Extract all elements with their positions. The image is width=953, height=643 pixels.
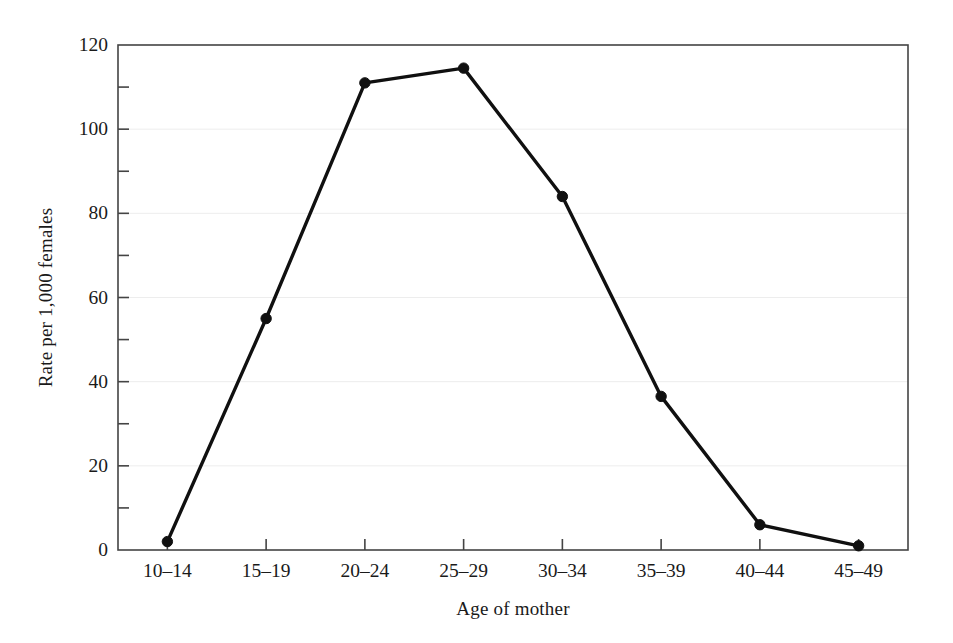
chart-figure: 020406080100120 10–1415–1920–2425–2930–3… (0, 0, 953, 643)
x-tick-label: 10–14 (143, 561, 192, 581)
x-tick-label: 35–39 (637, 561, 686, 581)
data-point (853, 541, 863, 551)
data-point (755, 520, 765, 530)
data-point (656, 391, 666, 401)
data-line (167, 68, 858, 546)
x-axis-title: Age of mother (118, 598, 908, 620)
data-point (557, 191, 567, 201)
y-tick-label: 100 (56, 119, 108, 139)
gridlines-group (118, 129, 908, 466)
x-tick-label: 30–34 (538, 561, 587, 581)
x-tick-label: 45–49 (834, 561, 883, 581)
x-axis-tick-labels: 10–1415–1920–2425–2930–3435–3940–4445–49 (0, 561, 953, 591)
x-axis-ticks (167, 539, 858, 550)
y-tick-label: 0 (56, 540, 108, 560)
data-point-markers (162, 63, 864, 551)
data-point (458, 63, 468, 73)
data-point (261, 313, 271, 323)
x-tick-label: 40–44 (736, 561, 785, 581)
y-axis-tick-labels: 020406080100120 (56, 0, 108, 643)
x-tick-label: 15–19 (242, 561, 291, 581)
y-tick-label: 40 (56, 372, 108, 392)
y-tick-label: 120 (56, 35, 108, 55)
x-tick-label: 25–29 (439, 561, 488, 581)
y-axis-ticks (118, 87, 129, 508)
data-point (162, 536, 172, 546)
y-tick-label: 20 (56, 456, 108, 476)
line-chart-plot-area (0, 0, 953, 643)
x-tick-label: 20–24 (341, 561, 390, 581)
y-tick-label: 60 (56, 288, 108, 308)
y-tick-label: 80 (56, 203, 108, 223)
data-point (360, 78, 370, 88)
